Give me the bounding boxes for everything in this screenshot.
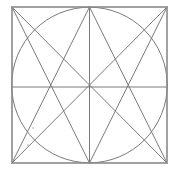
mark-1 [32, 127, 33, 128]
mark-2 [27, 144, 28, 145]
geometric-diagram [0, 0, 178, 174]
